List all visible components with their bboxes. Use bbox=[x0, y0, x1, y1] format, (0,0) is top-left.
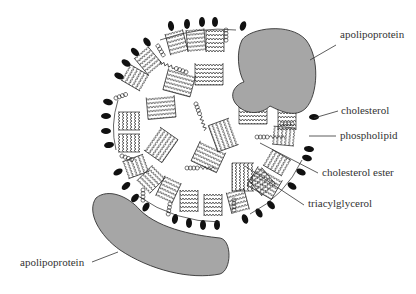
diagram-canvas: apolipoprotein cholesterol phospholipid … bbox=[0, 0, 416, 294]
label-apolipoprotein-bottom: apolipoprotein bbox=[20, 256, 85, 268]
label-cholesterol-ester: cholesterol ester bbox=[322, 166, 394, 178]
label-apolipoprotein-top: apolipoprotein bbox=[340, 28, 405, 40]
label-phospholipid: phospholipid bbox=[340, 129, 398, 141]
label-triacylglycerol: triacylglycerol bbox=[308, 197, 372, 209]
lipoprotein-diagram: apolipoprotein cholesterol phospholipid … bbox=[0, 0, 416, 294]
apolipoprotein-top-shape bbox=[233, 29, 316, 114]
label-cholesterol: cholesterol bbox=[341, 104, 389, 116]
